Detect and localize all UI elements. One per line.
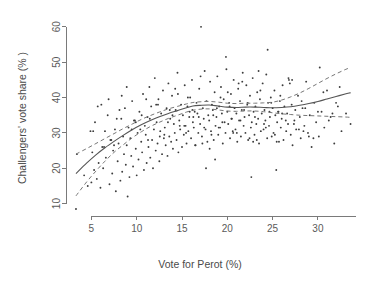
data-point	[244, 116, 246, 118]
data-point	[264, 120, 266, 122]
data-point	[267, 49, 269, 51]
data-point	[150, 105, 152, 107]
data-point	[149, 157, 151, 159]
data-point	[130, 155, 132, 157]
data-point	[208, 120, 210, 122]
data-point	[246, 104, 248, 106]
data-point	[192, 121, 194, 123]
data-point	[141, 114, 143, 116]
data-point	[250, 127, 252, 129]
data-point	[230, 118, 232, 120]
data-point	[153, 128, 155, 130]
data-point	[225, 68, 227, 70]
data-point	[139, 128, 141, 130]
data-point	[93, 169, 95, 171]
data-point	[203, 118, 205, 120]
data-point	[167, 121, 169, 123]
data-point	[113, 144, 115, 146]
data-point	[291, 104, 293, 106]
data-point	[205, 167, 207, 169]
data-point	[119, 109, 121, 111]
data-point	[189, 97, 191, 99]
y-tick-label: 20	[52, 162, 63, 174]
data-point	[201, 143, 203, 145]
data-point	[124, 107, 126, 109]
data-point	[193, 127, 195, 129]
data-point	[297, 95, 299, 97]
data-point	[209, 81, 211, 83]
data-point	[197, 132, 199, 134]
x-tick-label: 5	[89, 223, 95, 234]
data-point	[255, 123, 257, 125]
data-point	[232, 132, 234, 134]
data-point	[155, 104, 157, 106]
data-point	[218, 127, 220, 129]
data-point	[87, 185, 89, 187]
data-point	[288, 77, 290, 79]
data-point	[288, 79, 290, 81]
data-point	[179, 128, 181, 130]
data-point	[251, 121, 253, 123]
data-point	[177, 151, 179, 153]
data-point	[214, 91, 216, 93]
y-tick-label: 30	[52, 127, 63, 139]
data-point	[110, 139, 112, 141]
data-point	[159, 136, 161, 138]
data-point	[97, 105, 99, 107]
data-point	[253, 111, 255, 113]
data-point	[225, 132, 227, 134]
data-point	[148, 86, 150, 88]
data-point	[179, 125, 181, 127]
data-point	[270, 97, 272, 99]
x-tick-label: 20	[222, 223, 234, 234]
data-point	[194, 111, 196, 113]
data-point	[254, 134, 256, 136]
data-point	[157, 98, 159, 100]
data-point	[151, 139, 153, 141]
data-point	[276, 121, 278, 123]
data-point	[188, 116, 190, 118]
data-point	[274, 134, 276, 136]
data-point	[289, 82, 291, 84]
data-point	[168, 136, 170, 138]
data-point	[148, 146, 150, 148]
data-point	[116, 118, 118, 120]
x-tick-label: 25	[267, 223, 279, 234]
data-point	[92, 130, 94, 132]
data-point	[157, 104, 159, 106]
data-point	[205, 128, 207, 130]
data-point	[293, 123, 295, 125]
data-point	[247, 139, 249, 141]
data-point	[220, 97, 222, 99]
data-point	[331, 113, 333, 115]
data-point	[295, 128, 297, 130]
data-point	[240, 120, 242, 122]
x-tick-label: 30	[312, 223, 324, 234]
data-point	[119, 180, 121, 182]
data-point	[172, 114, 174, 116]
data-point	[99, 187, 101, 189]
data-point	[262, 82, 264, 84]
data-point	[261, 113, 263, 115]
data-point	[308, 136, 310, 138]
data-point	[252, 141, 254, 143]
data-point	[345, 113, 347, 115]
data-point	[229, 137, 231, 139]
data-point	[278, 141, 280, 143]
data-point	[96, 178, 98, 180]
data-point	[241, 81, 243, 83]
data-point	[350, 123, 352, 125]
data-point	[290, 134, 292, 136]
data-point	[293, 120, 295, 122]
data-point	[199, 123, 201, 125]
data-point	[127, 196, 129, 198]
data-point	[266, 137, 268, 139]
data-point	[238, 82, 240, 84]
data-point	[159, 130, 161, 132]
data-point	[244, 132, 246, 134]
data-point	[240, 136, 242, 138]
data-point	[319, 67, 321, 69]
data-point	[283, 139, 285, 141]
data-point	[149, 118, 151, 120]
data-point	[136, 174, 138, 176]
